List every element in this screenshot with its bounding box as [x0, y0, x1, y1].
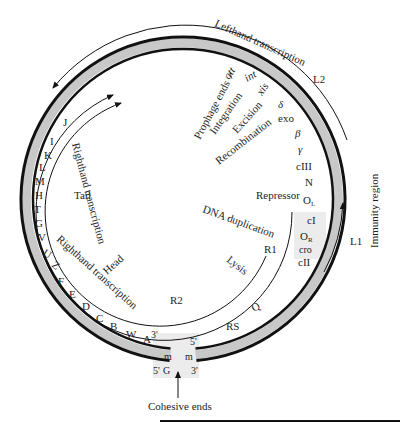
- gene-D: D: [82, 300, 90, 312]
- operator-OL: OL: [303, 194, 315, 208]
- gene-W: W: [126, 328, 137, 340]
- gene-T: T: [34, 203, 41, 215]
- cohesive-right-3prime: 3': [191, 365, 198, 376]
- gene-cIII: cIII: [296, 160, 312, 172]
- cohesive-left-3prime: 3': [151, 329, 158, 340]
- gene-H: H: [35, 189, 43, 201]
- gene-xis: xis: [253, 80, 270, 98]
- cohesive-right-m: m: [185, 351, 193, 362]
- gene-I: I: [50, 135, 54, 147]
- gene-beta: β: [294, 127, 301, 139]
- gene-G: G: [35, 217, 43, 229]
- gene-gamma: γ: [298, 143, 303, 155]
- gene-M: M: [35, 175, 45, 187]
- gene-cI: cI: [307, 214, 316, 226]
- L2-label: L2: [313, 73, 325, 85]
- immunity-region-label: Immunity region: [368, 173, 380, 248]
- gene-Q: Q: [249, 299, 262, 313]
- gene-cII: cII: [298, 256, 311, 268]
- L1-label: L1: [350, 235, 362, 247]
- gene-delta: δ: [278, 98, 284, 110]
- cohesive-ends-label: Cohesive ends: [148, 400, 212, 412]
- cohesive-G: G: [163, 365, 170, 376]
- gene-A: A: [143, 333, 151, 345]
- gene-exo: exo: [278, 112, 294, 124]
- cohesive-right-5prime: 5': [190, 336, 197, 347]
- gene-RS: RS: [226, 320, 239, 332]
- lambda-map-diagram: Lefthand transcription L2 L1 Immunity re…: [0, 0, 400, 423]
- gene-L: L: [39, 161, 46, 173]
- cohesive-left-m: m: [164, 351, 172, 362]
- gene-C: C: [96, 312, 103, 324]
- gene-E: E: [69, 288, 76, 300]
- lysis-label: Lysis: [225, 253, 251, 277]
- gene-V: V: [38, 231, 46, 243]
- cohesive-left-5prime: 5': [153, 365, 160, 376]
- R1-label: R1: [264, 243, 277, 255]
- gene-N: N: [305, 176, 313, 188]
- gene-K: K: [44, 149, 52, 161]
- gene-J: J: [63, 116, 68, 128]
- repressor-label: Repressor: [256, 189, 300, 201]
- R2-label: R2: [170, 294, 183, 306]
- gene-B: B: [110, 320, 117, 332]
- gene-cro: cro: [299, 244, 312, 255]
- dna-duplication-label: DNA duplication: [201, 203, 276, 240]
- gene-F: F: [58, 275, 64, 287]
